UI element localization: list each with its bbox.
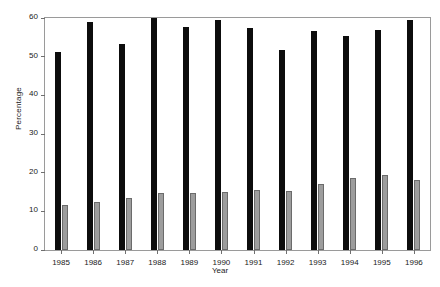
bar-black-series-1990 <box>215 20 221 250</box>
y-tick-label: 10 <box>29 205 38 214</box>
bar-group: 1992 <box>270 18 302 250</box>
bar-gray-series-1986 <box>94 202 100 250</box>
bar-gray-series-1992 <box>286 191 292 250</box>
bar-group: 1987 <box>109 18 141 250</box>
x-axis-title: Year <box>0 266 440 275</box>
x-tick-mark <box>157 250 158 254</box>
bar-pair <box>407 18 420 250</box>
bar-pair <box>343 18 356 250</box>
x-tick-mark <box>382 250 383 254</box>
x-tick-mark <box>93 250 94 254</box>
bar-groups: 1985198619871988198919901991199219931994… <box>45 18 430 250</box>
x-tick-mark <box>221 250 222 254</box>
chart-figure: Percentage 0102030405060 198519861987198… <box>0 0 440 287</box>
bar-black-series-1991 <box>247 28 253 250</box>
bar-pair <box>87 18 100 250</box>
bar-pair <box>119 18 132 250</box>
y-tick-label: 30 <box>29 128 38 137</box>
bar-group: 1991 <box>237 18 269 250</box>
bar-gray-series-1987 <box>126 198 132 250</box>
bar-black-series-1987 <box>119 44 125 250</box>
x-tick-mark <box>61 250 62 254</box>
bar-black-series-1994 <box>343 36 349 250</box>
bar-gray-series-1994 <box>350 178 356 250</box>
y-tick-label: 20 <box>29 167 38 176</box>
bar-group: 1985 <box>45 18 77 250</box>
bar-pair <box>215 18 228 250</box>
bar-group: 1994 <box>334 18 366 250</box>
bar-gray-series-1990 <box>222 192 228 250</box>
bar-black-series-1995 <box>375 30 381 250</box>
x-tick-mark <box>125 250 126 254</box>
bar-gray-series-1991 <box>254 190 260 250</box>
bar-group: 1990 <box>205 18 237 250</box>
y-tick-label: 40 <box>29 89 38 98</box>
bar-black-series-1992 <box>279 50 285 250</box>
bar-pair <box>183 18 196 250</box>
bar-black-series-1996 <box>407 20 413 250</box>
bar-group: 1995 <box>366 18 398 250</box>
y-tick-label: 60 <box>29 12 38 21</box>
x-tick-mark <box>350 250 351 254</box>
bar-pair <box>311 18 324 250</box>
x-tick-mark <box>286 250 287 254</box>
y-tick-label: 0 <box>34 244 38 253</box>
bar-black-series-1988 <box>151 18 157 250</box>
bar-pair <box>375 18 388 250</box>
bar-gray-series-1996 <box>414 180 420 250</box>
plot-area: 0102030405060 19851986198719881989199019… <box>44 17 431 251</box>
bar-group: 1986 <box>77 18 109 250</box>
bar-black-series-1985 <box>55 52 61 250</box>
x-tick-mark <box>414 250 415 254</box>
y-axis-title: Percentage <box>14 68 23 148</box>
bar-pair <box>279 18 292 250</box>
bar-group: 1993 <box>302 18 334 250</box>
bar-group: 1989 <box>173 18 205 250</box>
bar-gray-series-1985 <box>62 205 68 250</box>
x-tick-mark <box>318 250 319 254</box>
bar-gray-series-1988 <box>158 193 164 250</box>
y-tick-label: 50 <box>29 51 38 60</box>
bar-black-series-1986 <box>87 22 93 250</box>
bar-pair <box>151 18 164 250</box>
bar-gray-series-1993 <box>318 184 324 250</box>
bar-group: 1988 <box>141 18 173 250</box>
bar-pair <box>55 18 68 250</box>
bar-gray-series-1989 <box>190 193 196 250</box>
bar-gray-series-1995 <box>382 175 388 250</box>
x-tick-mark <box>189 250 190 254</box>
bar-black-series-1989 <box>183 27 189 250</box>
x-tick-mark <box>254 250 255 254</box>
bar-pair <box>247 18 260 250</box>
bar-black-series-1993 <box>311 31 317 250</box>
bar-group: 1996 <box>398 18 430 250</box>
